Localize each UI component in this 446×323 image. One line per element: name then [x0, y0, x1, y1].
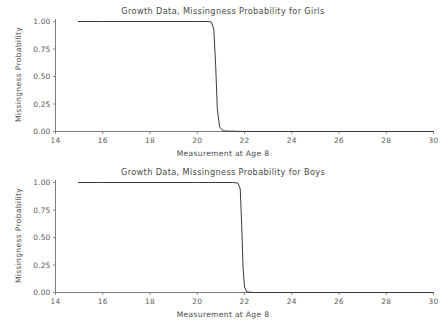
plot-area-boys: 1416182022242628300.000.250.500.751.00 [0, 161, 446, 322]
x-tick-label: 22 [240, 297, 250, 306]
y-tick-label: 0.75 [33, 45, 50, 54]
x-tick-label: 14 [51, 297, 61, 306]
y-tick-label: 0.75 [33, 206, 50, 215]
x-tick-label: 14 [51, 136, 61, 145]
x-tick-label: 26 [334, 297, 344, 306]
x-tick-label: 20 [192, 136, 202, 145]
x-axis-label-girls: Measurement at Age 8 [0, 149, 446, 158]
x-tick-label: 30 [429, 297, 439, 306]
x-tick-label: 24 [287, 297, 297, 306]
x-tick-label: 22 [240, 136, 250, 145]
x-tick-label: 28 [381, 297, 391, 306]
y-tick-label: 0.00 [33, 127, 50, 136]
chart-panel-boys: Growth Data, Missingness Probability for… [0, 161, 446, 322]
y-tick-label: 0.50 [33, 233, 50, 242]
y-tick-label: 1.00 [33, 17, 50, 26]
x-tick-label: 30 [429, 136, 439, 145]
data-series-line-girls [78, 22, 434, 132]
x-axis-label-boys: Measurement at Age 8 [0, 310, 446, 319]
y-tick-label: 0.25 [33, 261, 50, 270]
figure-container: Growth Data, Missingness Probability for… [0, 0, 446, 323]
y-tick-label: 1.00 [33, 178, 50, 187]
x-tick-label: 16 [98, 297, 108, 306]
x-tick-label: 26 [334, 136, 344, 145]
x-tick-label: 18 [145, 297, 155, 306]
x-tick-label: 20 [192, 297, 202, 306]
x-tick-label: 24 [287, 136, 297, 145]
x-tick-label: 18 [145, 136, 155, 145]
x-tick-label: 16 [98, 136, 108, 145]
y-tick-label: 0.00 [33, 288, 50, 297]
y-tick-label: 0.25 [33, 100, 50, 109]
x-tick-label: 28 [381, 136, 391, 145]
data-series-line-boys [78, 183, 434, 293]
y-tick-label: 0.50 [33, 72, 50, 81]
chart-panel-girls: Growth Data, Missingness Probability for… [0, 0, 446, 161]
plot-area-girls: 1416182022242628300.000.250.500.751.00 [0, 0, 446, 161]
